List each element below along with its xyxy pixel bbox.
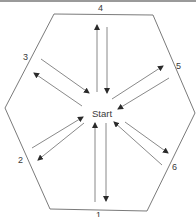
- side-label-1: 1: [96, 210, 101, 217]
- arrow-start-to-5: [112, 66, 163, 99]
- side-label-2: 2: [18, 155, 23, 165]
- start-label: Start: [92, 108, 112, 119]
- side-label-4: 4: [98, 3, 103, 13]
- arrow-2-to-start: [32, 117, 83, 148]
- arrow-3-to-start: [41, 59, 89, 93]
- arrow-5-to-start: [118, 78, 169, 109]
- arrow-start-to-2: [38, 123, 84, 160]
- side-label-3: 3: [23, 52, 28, 62]
- side-label-6: 6: [172, 162, 177, 172]
- hexagon-diagram: 4 3 5 2 6 1 Start: [0, 0, 196, 217]
- arrow-start-to-3: [34, 73, 82, 106]
- side-label-5: 5: [176, 61, 181, 71]
